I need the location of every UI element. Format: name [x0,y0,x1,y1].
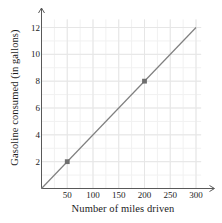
gasoline-vs-miles-chart: Gasoline consumed (in gallons) Number of… [0,0,222,223]
plot-area [0,0,222,223]
